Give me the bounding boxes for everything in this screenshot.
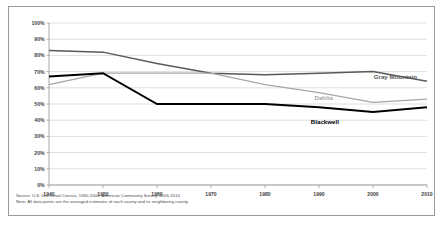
y-tick-label: 100% <box>31 20 44 26</box>
x-tick-label: 2000 <box>367 191 378 197</box>
y-tick-label: 30% <box>34 133 45 139</box>
y-tick-label: 70% <box>34 69 45 75</box>
y-tick-label: 60% <box>34 85 45 91</box>
footnotes: Source: U.S. Decennial Census, 1940-2000… <box>16 193 316 205</box>
y-tick-label: 10% <box>34 166 45 172</box>
y-tick-label: 20% <box>34 150 45 156</box>
chart-card: 0%10%20%30%40%50%60%70%80%90%100% 194019… <box>8 6 435 216</box>
series-label-gray-mountain: Gray Mountain <box>374 73 418 80</box>
y-tick-label: 80% <box>34 52 45 58</box>
series-labels-group: Gray MountainDahliaBlackwell <box>311 73 417 125</box>
axes-group <box>47 23 428 188</box>
y-tick-label: 40% <box>34 117 45 123</box>
chart-plot-area: 0%10%20%30%40%50%60%70%80%90%100% 194019… <box>9 7 436 217</box>
methodology-note: Note: All data points are the averaged e… <box>16 199 316 205</box>
line-chart: 0%10%20%30%40%50%60%70%80%90%100% 194019… <box>9 7 436 217</box>
series-label-dahlia: Dahlia <box>314 94 333 101</box>
data-series-group <box>49 51 427 113</box>
x-tick-label: 2010 <box>421 191 432 197</box>
y-tick-label: 50% <box>34 101 45 107</box>
y-tick-label: 0% <box>37 182 45 188</box>
y-axis-tick-labels: 0%10%20%30%40%50%60%70%80%90%100% <box>31 20 44 188</box>
y-tick-label: 90% <box>34 36 45 42</box>
series-label-blackwell: Blackwell <box>311 118 339 125</box>
